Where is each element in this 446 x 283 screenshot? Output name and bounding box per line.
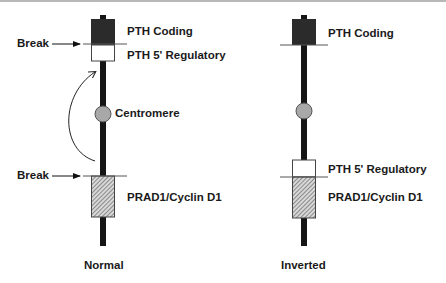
inverted-pth-regulatory-block bbox=[293, 160, 316, 177]
inverted-pth-coding-block bbox=[292, 19, 316, 45]
normal-caption: Normal bbox=[84, 260, 124, 272]
normal-pth-coding-block bbox=[91, 19, 115, 45]
inverted-label-cyclin: PRAD1/Cyclin D1 bbox=[328, 192, 423, 204]
normal-label-centromere: Centromere bbox=[115, 108, 180, 120]
break-label-top: Break bbox=[17, 38, 49, 50]
normal-cyclin-block bbox=[92, 176, 115, 217]
inversion-curve-arrow bbox=[69, 72, 95, 161]
normal-label-pth-coding: PTH Coding bbox=[127, 26, 193, 38]
normal-centromere bbox=[95, 106, 111, 122]
inverted-cyclin-block bbox=[293, 177, 316, 218]
inverted-label-pth-coding: PTH Coding bbox=[328, 28, 394, 40]
normal-chromosome bbox=[52, 15, 127, 246]
diagram-canvas bbox=[0, 0, 446, 283]
break-label-bottom: Break bbox=[17, 170, 49, 182]
normal-label-cyclin: PRAD1/Cyclin D1 bbox=[127, 192, 222, 204]
inverted-centromere bbox=[296, 103, 312, 119]
inverted-label-pth-regulatory: PTH 5' Regulatory bbox=[328, 164, 427, 176]
inverted-caption: Inverted bbox=[281, 260, 326, 272]
normal-label-pth-regulatory: PTH 5' Regulatory bbox=[127, 50, 226, 62]
normal-pth-regulatory-block bbox=[92, 45, 115, 61]
inverted-chromosome bbox=[280, 15, 328, 246]
